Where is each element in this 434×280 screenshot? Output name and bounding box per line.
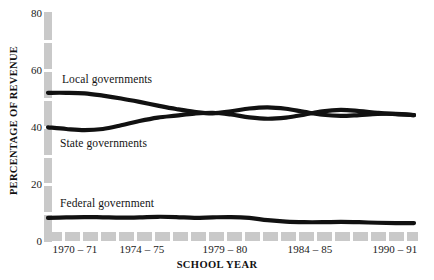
chart-figure: PERCENTAGE OF REVENUE 80 60 40 20 0 1970…: [0, 0, 434, 280]
line-state-governments: [48, 110, 414, 130]
line-federal-government: [48, 217, 414, 223]
series-label-federal-government: Federal government: [60, 197, 154, 209]
series-label-local-governments: Local governments: [62, 73, 152, 85]
x-axis-title: SCHOOL YEAR: [0, 259, 434, 270]
series-label-state-governments: State governments: [60, 137, 147, 149]
